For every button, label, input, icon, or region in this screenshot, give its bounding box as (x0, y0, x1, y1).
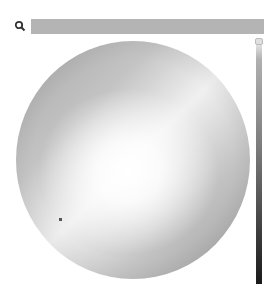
brightness-slider[interactable] (256, 40, 262, 284)
brightness-slider-thumb[interactable] (255, 38, 263, 45)
search-icon (14, 20, 26, 32)
search-input[interactable] (31, 19, 264, 34)
color-picker-cursor[interactable] (59, 218, 62, 221)
color-wheel[interactable] (16, 41, 250, 279)
